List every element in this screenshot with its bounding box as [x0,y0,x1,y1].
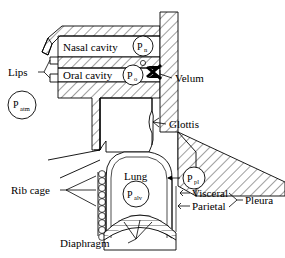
trachea-airway [100,98,153,152]
pressure-nasal: P n [133,36,153,56]
chest-wall-left [48,150,100,178]
pleural-space-lines [172,178,176,236]
lips-label: Lips [8,66,28,78]
parietal-label: Parietal [192,200,226,212]
pressure-alveolar-symbol: P [127,189,133,200]
rib-cage-leader [60,176,96,206]
respiratory-diagram-canvas: Nasal cavity Oral cavity Lips Velum Glot… [0,0,285,258]
pleura-label: Pleura [245,194,273,206]
glottis-label: Glottis [169,118,199,130]
pressure-oral-subscript: o [134,75,137,82]
lips-leader [38,60,50,78]
pressure-oral-symbol: P [127,70,133,81]
rib-cage-label: Rib cage [11,184,50,196]
velum-label: Velum [175,72,204,84]
pressure-atmospheric-subscript: atm [20,105,30,112]
lung-label: Lung [124,170,148,182]
pressure-pleural: P pl [183,167,205,189]
lips-structure [50,57,58,82]
nasal-cavity-label: Nasal cavity [63,41,118,53]
diaphragm-label: Diaphragm [60,237,110,249]
pressure-oral: P o [123,65,143,85]
pressure-atmospheric: P atm [8,91,36,119]
oral-cavity-label: Oral cavity [63,69,113,81]
pressure-nasal-symbol: P [137,41,143,52]
rib-cage-structure [98,171,106,241]
pressure-atmospheric-symbol: P [13,99,19,110]
pressure-alveolar: P alv [123,181,149,207]
pressure-pleural-subscript: pl [194,178,199,185]
pressure-pleural-symbol: P [187,173,193,184]
respiratory-diagram: Nasal cavity Oral cavity Lips Velum Glot… [0,0,285,258]
pressure-alveolar-subscript: alv [134,194,143,201]
